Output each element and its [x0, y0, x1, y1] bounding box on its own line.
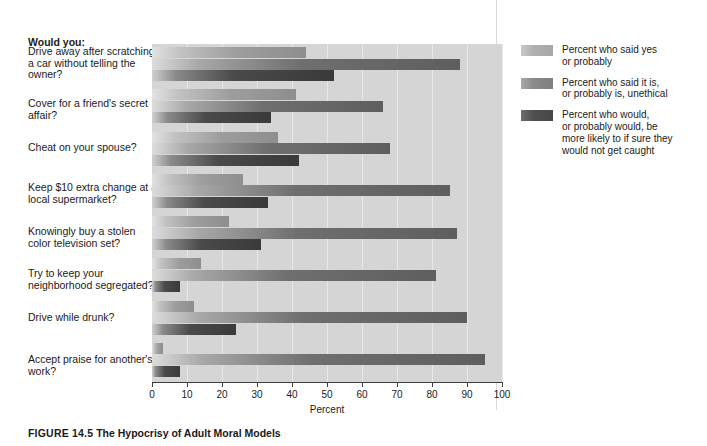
question-label: Knowingly buy a stolen color television …	[28, 226, 160, 249]
bar-series-1	[152, 343, 163, 354]
bar-series-2	[152, 270, 436, 281]
x-tick	[432, 382, 433, 387]
bar-series-1	[152, 216, 229, 227]
legend-item: Percent who said yes or probably	[521, 44, 701, 68]
bar-series-3	[152, 70, 334, 81]
bar-series-1	[152, 132, 278, 143]
legend-item: Percent who would, or probably would, be…	[521, 109, 701, 156]
question-label: Cheat on your spouse?	[28, 142, 160, 154]
bar-series-3	[152, 112, 271, 123]
x-tick-label: 100	[489, 389, 515, 400]
x-tick	[362, 382, 363, 387]
x-tick-label: 60	[349, 389, 375, 400]
question-label: Drive away after scratching a car withou…	[28, 46, 160, 81]
bar-group	[152, 89, 502, 123]
bar-series-1	[152, 258, 201, 269]
bar-series-3	[152, 366, 180, 377]
bar-series-1	[152, 174, 243, 185]
x-tick	[222, 382, 223, 387]
chart-legend: Percent who said yes or probablyPercent …	[521, 44, 701, 165]
legend-swatch	[521, 45, 553, 56]
question-label: Cover for a friend's secret affair?	[28, 98, 160, 121]
bar-group	[152, 216, 502, 250]
x-tick-label: 0	[139, 389, 165, 400]
x-axis-title: Percent	[152, 404, 502, 415]
question-label: Accept praise for another's work?	[28, 354, 160, 377]
x-tick-label: 40	[279, 389, 305, 400]
x-tick	[467, 382, 468, 387]
figure-page: Would you: Drive away after scratching a…	[0, 0, 707, 446]
figure-number: FIGURE 14.5	[28, 427, 93, 439]
bar-series-3	[152, 239, 261, 250]
bar-series-2	[152, 228, 457, 239]
legend-swatch	[521, 110, 553, 121]
bar-series-2	[152, 354, 485, 365]
x-tick	[502, 382, 503, 387]
legend-label: Percent who would, or probably would, be…	[562, 109, 673, 156]
x-tick-label: 90	[454, 389, 480, 400]
bar-series-3	[152, 197, 268, 208]
bar-series-2	[152, 101, 383, 112]
x-tick	[397, 382, 398, 387]
legend-swatch	[521, 78, 553, 89]
bar-series-1	[152, 301, 194, 312]
legend-label: Percent who said yes or probably	[562, 44, 657, 68]
question-label: Keep $10 extra change at a local superma…	[28, 182, 160, 205]
x-tick-label: 20	[209, 389, 235, 400]
bar-series-3	[152, 324, 236, 335]
x-tick-label: 10	[174, 389, 200, 400]
x-tick	[257, 382, 258, 387]
chart-plot-area	[152, 44, 502, 382]
legend-item: Percent who said it is, or probably is, …	[521, 77, 701, 101]
bar-series-1	[152, 47, 306, 58]
x-tick	[327, 382, 328, 387]
bar-series-3	[152, 155, 299, 166]
x-tick	[187, 382, 188, 387]
bar-group	[152, 132, 502, 166]
question-label-column: Would you: Drive away after scratching a…	[28, 36, 150, 56]
x-tick-label: 50	[314, 389, 340, 400]
bar-series-2	[152, 59, 460, 70]
bar-group	[152, 258, 502, 292]
bar-group	[152, 301, 502, 335]
bar-series-1	[152, 89, 296, 100]
bar-series-3	[152, 281, 180, 292]
gridline-100	[502, 44, 503, 382]
bar-series-2	[152, 185, 450, 196]
x-tick-label: 80	[419, 389, 445, 400]
figure-title: The Hypocrisy of Adult Moral Models	[96, 427, 281, 439]
bar-group	[152, 47, 502, 81]
x-tick	[292, 382, 293, 387]
x-tick-label: 70	[384, 389, 410, 400]
question-label: Try to keep your neighborhood segregated…	[28, 268, 160, 291]
figure-caption: FIGURE 14.5 The Hypocrisy of Adult Moral…	[28, 427, 281, 439]
bar-series-2	[152, 143, 390, 154]
bar-group	[152, 343, 502, 377]
x-tick	[152, 382, 153, 387]
bar-group	[152, 174, 502, 208]
x-tick-label: 30	[244, 389, 270, 400]
bar-series-2	[152, 312, 467, 323]
legend-label: Percent who said it is, or probably is, …	[562, 77, 668, 101]
question-label: Drive while drunk?	[28, 312, 160, 324]
